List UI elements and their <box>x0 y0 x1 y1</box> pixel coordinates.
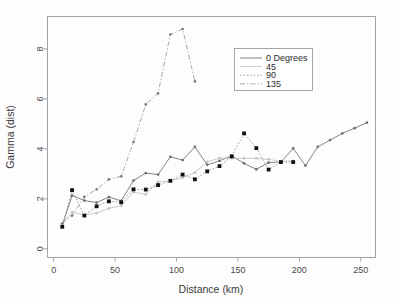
chart-figure: 050100150200250 02468 Distance (km) Gamm… <box>0 0 398 303</box>
data-point <box>181 28 184 31</box>
y-tick-label-6: 6 <box>35 96 45 101</box>
data-point <box>108 196 111 199</box>
data-point <box>144 103 147 106</box>
data-point <box>242 131 246 135</box>
data-point <box>95 188 98 191</box>
data-point <box>243 157 246 160</box>
data-point <box>279 160 283 164</box>
data-point <box>95 212 98 215</box>
data-point <box>267 168 271 172</box>
data-point <box>267 158 270 161</box>
y-tick-label-4: 4 <box>35 146 45 151</box>
y-axis-title: Gamma (dist) <box>4 105 16 169</box>
data-point <box>144 172 147 175</box>
chart-legend[interactable]: 0 Degrees4590135 <box>235 49 313 91</box>
data-point <box>107 199 111 203</box>
data-point <box>255 168 258 171</box>
x-tick-label-50: 50 <box>110 265 120 275</box>
data-point <box>132 179 135 182</box>
data-point <box>168 179 172 183</box>
data-point <box>132 141 135 144</box>
x-axis-title: Distance (km) <box>179 283 244 295</box>
data-point <box>95 201 98 204</box>
x-tick-label-250: 250 <box>353 265 368 275</box>
data-point <box>157 173 160 176</box>
data-point <box>218 157 221 160</box>
data-point <box>169 33 172 36</box>
data-point <box>120 204 123 207</box>
data-point <box>254 146 258 150</box>
legend-label-3: 135 <box>266 79 281 89</box>
data-point <box>194 171 197 174</box>
data-point <box>181 173 185 177</box>
data-point <box>316 146 319 149</box>
data-point <box>181 159 184 162</box>
data-point <box>108 178 111 181</box>
data-point <box>144 188 148 192</box>
data-point <box>194 80 197 83</box>
data-point <box>218 160 221 163</box>
data-point <box>205 169 209 173</box>
data-point <box>83 199 86 202</box>
data-point <box>71 211 74 214</box>
data-point <box>82 214 86 218</box>
data-point <box>70 188 74 192</box>
data-point <box>329 139 332 142</box>
data-point <box>71 214 74 217</box>
data-point <box>304 164 307 167</box>
data-point <box>71 194 74 197</box>
x-tick-label-150: 150 <box>230 265 245 275</box>
data-point <box>206 164 209 167</box>
data-point <box>291 160 295 164</box>
data-point <box>169 156 172 159</box>
data-point <box>353 127 356 130</box>
gamma-distance-line-chart: 050100150200250 02468 Distance (km) Gamm… <box>0 0 398 303</box>
data-point <box>83 195 86 198</box>
data-point <box>120 175 123 178</box>
data-point <box>255 157 258 160</box>
data-point <box>61 222 64 225</box>
data-point <box>95 204 99 208</box>
data-point <box>243 162 246 165</box>
data-point <box>181 176 184 179</box>
data-point <box>119 200 123 204</box>
data-point <box>60 225 64 229</box>
y-tick-label-8: 8 <box>35 46 45 51</box>
data-point <box>132 187 136 191</box>
x-tick-label-100: 100 <box>169 265 184 275</box>
data-point <box>157 180 160 183</box>
data-point <box>292 147 295 150</box>
data-point <box>157 92 160 95</box>
data-point <box>341 132 344 135</box>
y-tick-label-2: 2 <box>35 196 45 201</box>
data-point <box>194 146 197 149</box>
data-point <box>218 164 222 168</box>
data-point <box>144 193 147 196</box>
x-tick-label-0: 0 <box>51 265 56 275</box>
data-point <box>108 207 111 210</box>
data-point <box>366 121 369 124</box>
y-tick-label-0: 0 <box>35 246 45 251</box>
data-point <box>230 154 234 158</box>
data-point <box>206 161 209 164</box>
data-point <box>267 161 270 164</box>
data-point <box>193 177 197 181</box>
x-tick-label-200: 200 <box>292 265 307 275</box>
data-point <box>156 183 160 187</box>
